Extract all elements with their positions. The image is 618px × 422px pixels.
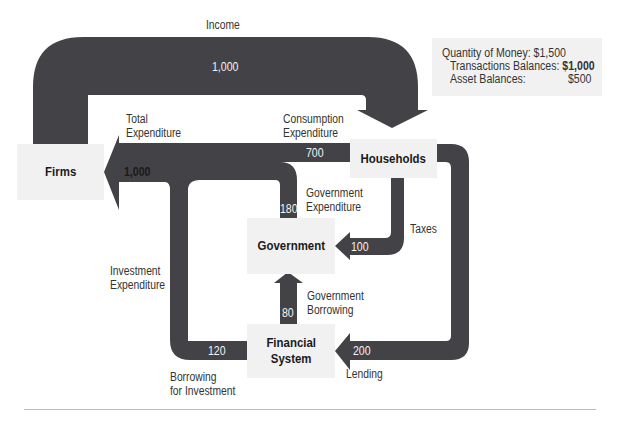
node-firms: Firms — [17, 144, 104, 200]
node-financial-system: Financial System — [247, 324, 335, 378]
income-flow — [33, 37, 428, 144]
consumption-expenditure-value: 700 — [306, 146, 324, 160]
asset-balances-value: $500 — [568, 73, 591, 86]
lending-label: Lending — [346, 367, 383, 381]
node-households: Households — [350, 139, 437, 178]
quantity-of-money-label: Quantity of Money: — [442, 46, 531, 60]
borrowing-for-investment-label: Borrowing for Investment — [170, 370, 235, 398]
divider-line — [24, 409, 596, 410]
asset-balances-row: Asset Balances: $500 — [450, 73, 591, 86]
borrowing-for-investment-value: 120 — [208, 344, 226, 358]
total-expenditure-label: Total Expenditure — [126, 112, 181, 140]
lending-value: 200 — [353, 344, 371, 358]
node-government-label: Government — [257, 238, 324, 254]
government-expenditure-value: 180 — [280, 202, 298, 216]
asset-balances-label: Asset Balances: — [450, 72, 526, 86]
income-value: 1,000 — [212, 60, 238, 74]
transactions-balances-label: Transactions Balances: — [450, 59, 559, 73]
investment-expenditure-label: Investment Expenditure — [110, 264, 165, 292]
money-info-box: Quantity of Money: $1,500 Transactions B… — [432, 38, 602, 96]
government-expenditure-label: Government Expenditure — [306, 186, 363, 214]
taxes-value: 100 — [351, 240, 369, 254]
node-government: Government — [247, 218, 335, 274]
income-label: Income — [206, 18, 240, 32]
total-expenditure-value: 1,000 — [124, 165, 150, 179]
node-households-label: Households — [361, 151, 426, 167]
quantity-of-money-value: $1,500 — [534, 46, 566, 60]
node-financial-system-label: Financial System — [266, 335, 316, 367]
node-firms-label: Firms — [45, 164, 76, 180]
consumption-expenditure-label: Consumption Expenditure — [283, 112, 344, 140]
government-borrowing-label: Government Borrowing — [307, 289, 364, 317]
transactions-balances-value: $1,000 — [562, 59, 594, 73]
taxes-label: Taxes — [410, 222, 437, 236]
government-borrowing-value: 80 — [282, 306, 294, 320]
